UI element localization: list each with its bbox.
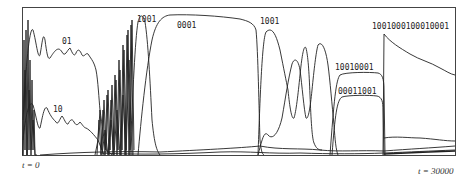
series-0001 <box>138 15 264 155</box>
x-axis-start-label: t = 0 <box>22 160 40 170</box>
series-late-low <box>384 137 455 141</box>
label-01: 01 <box>62 37 72 46</box>
series-10010001 <box>330 72 385 155</box>
label-1001-first: 1001 <box>137 15 156 24</box>
chart-figure: 01 10 1001 0001 1001 10010001 00011001 1… <box>0 0 474 181</box>
label-0001: 0001 <box>177 21 196 30</box>
series-00011001 <box>332 95 384 155</box>
label-00011001: 00011001 <box>338 87 377 96</box>
label-10: 10 <box>53 105 63 114</box>
series-1001-second <box>258 30 322 155</box>
x-axis-end-label: t = 30000 <box>418 166 454 176</box>
series-1001-counter <box>258 44 338 155</box>
label-1001-second: 1001 <box>260 17 279 26</box>
label-10010001: 10010001 <box>335 63 374 72</box>
label-1001000100010001: 1001000100010001 <box>372 22 449 31</box>
